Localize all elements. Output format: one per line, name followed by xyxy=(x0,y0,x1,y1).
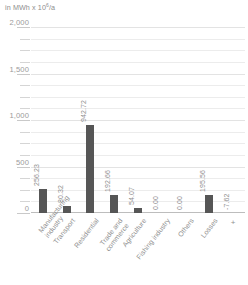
bar-slot: 256.23 xyxy=(31,27,55,213)
bar-chart: in MWh x 106/a 2,0001,5001,0005000 256.2… xyxy=(0,0,248,285)
x-axis-label: + xyxy=(223,219,243,227)
bar-value-label: 192.66 xyxy=(104,170,111,192)
y-tick-mark xyxy=(17,167,30,168)
bar-slot: 192.66 xyxy=(102,27,126,213)
bar-value-label: 54.07 xyxy=(127,187,134,205)
bar-slot: -7.62 xyxy=(221,27,245,213)
bar-value-label: 256.23 xyxy=(32,164,39,186)
bar-slot: 54.07 xyxy=(126,27,150,213)
y-tick-mark xyxy=(20,190,30,191)
bar[interactable] xyxy=(205,195,213,213)
y-tick-mark xyxy=(17,27,30,28)
bar-value-label: 0.00 xyxy=(151,196,158,210)
bar-value-label: 195.56 xyxy=(199,170,206,192)
y-tick-label: 1,000 xyxy=(3,111,29,120)
y-tick-label: 1,500 xyxy=(3,65,29,74)
y-tick-mark xyxy=(20,50,30,51)
y-tick-mark xyxy=(20,62,30,63)
bar-slot: 80.32 xyxy=(55,27,79,213)
y-tick-mark xyxy=(20,201,30,202)
y-tick-mark xyxy=(20,143,30,144)
y-tick-mark xyxy=(17,74,30,75)
y-tick-mark xyxy=(17,213,30,214)
y-tick-label: 0 xyxy=(3,204,29,213)
y-tick-mark xyxy=(20,132,30,133)
x-axis-label-line: + xyxy=(223,219,243,227)
bar[interactable] xyxy=(134,208,142,213)
y-tick-mark xyxy=(17,120,30,121)
y-tick-label: 2,000 xyxy=(3,18,29,27)
bar-slot: 0.00 xyxy=(174,27,198,213)
bar-slot: 942.72 xyxy=(79,27,103,213)
y-tick-mark xyxy=(20,108,30,109)
bars-layer: 256.2380.32942.72192.6654.070.000.00195.… xyxy=(31,27,245,213)
bar-value-label: -7.62 xyxy=(223,194,230,210)
x-axis-labels: ManufacturingindustryTransportResidentia… xyxy=(31,215,245,285)
y-tick-label: 500 xyxy=(3,158,29,167)
bar-value-label: 0.00 xyxy=(175,196,182,210)
y-tick-mark xyxy=(20,155,30,156)
bar[interactable] xyxy=(39,189,47,213)
y-tick-mark xyxy=(20,97,30,98)
unit-caption-prefix: in MWh x 10 xyxy=(5,3,46,12)
bar-slot: 195.56 xyxy=(197,27,221,213)
bar-slot: 0.00 xyxy=(150,27,174,213)
bar-value-label: 942.72 xyxy=(80,100,87,122)
unit-caption: in MWh x 106/a xyxy=(5,3,55,12)
unit-caption-suffix: /a xyxy=(49,3,55,12)
y-tick-mark xyxy=(20,85,30,86)
bar[interactable] xyxy=(110,195,118,213)
y-tick-mark xyxy=(20,178,30,179)
y-tick-mark xyxy=(20,39,30,40)
bar[interactable] xyxy=(86,125,94,213)
